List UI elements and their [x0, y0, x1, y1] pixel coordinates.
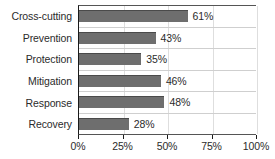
category-label: Mitigation — [0, 70, 76, 92]
x-tick-mark — [123, 135, 124, 139]
category-label: Prevention — [0, 27, 76, 49]
bar-row: 48% — [79, 92, 256, 114]
x-tick-label: 0% — [71, 140, 86, 152]
x-tick-mark — [167, 135, 168, 139]
bar — [79, 118, 129, 130]
x-tick-label: 100% — [243, 140, 269, 152]
x-tick-label: 25% — [112, 140, 133, 152]
bar-row: 46% — [79, 71, 256, 93]
x-tick-label: 50% — [157, 140, 178, 152]
bar-value-label: 43% — [161, 32, 182, 44]
plot-area: 61% 43% 35% 46% 48% 28% — [78, 5, 256, 135]
category-label: Response — [0, 92, 76, 114]
x-tick-mark — [78, 135, 79, 139]
gridline — [257, 6, 258, 134]
bar — [79, 10, 188, 22]
bar — [79, 75, 161, 87]
bar — [79, 96, 164, 108]
bar-row: 28% — [79, 114, 256, 135]
bar-value-label: 28% — [134, 118, 155, 130]
bars-layer: 61% 43% 35% 46% 48% 28% — [79, 6, 256, 134]
x-tick-label: 75% — [201, 140, 222, 152]
bar — [79, 53, 141, 65]
bar-row: 61% — [79, 6, 256, 28]
category-label: Protection — [0, 48, 76, 70]
category-label: Cross-cutting — [0, 5, 76, 27]
bar-row: 43% — [79, 28, 256, 50]
bar-chart: Cross-cutting Prevention Protection Miti… — [0, 0, 275, 159]
x-tick-mark — [256, 135, 257, 139]
bar-value-label: 46% — [166, 75, 187, 87]
bar — [79, 32, 156, 44]
category-label: Recovery — [0, 113, 76, 135]
bar-row: 35% — [79, 49, 256, 71]
x-tick-mark — [212, 135, 213, 139]
bar-value-label: 61% — [193, 10, 214, 22]
bar-value-label: 35% — [146, 53, 167, 65]
x-axis: 0%25%50%75%100% — [78, 135, 256, 159]
bar-value-label: 48% — [169, 96, 190, 108]
category-axis: Cross-cutting Prevention Protection Miti… — [0, 5, 76, 135]
